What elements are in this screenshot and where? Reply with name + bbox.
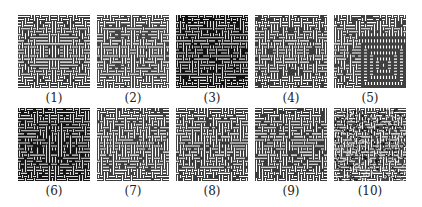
panel-label-2: (2) [97, 91, 169, 105]
panel-label-7: (7) [97, 184, 169, 198]
panel-label-8: (8) [176, 184, 248, 198]
pattern-panel-8 [176, 108, 248, 181]
pattern-panel-9 [255, 108, 327, 181]
pattern-panel-7 [97, 108, 169, 181]
panel-label-9: (9) [255, 184, 327, 198]
pattern-panel-2 [97, 15, 169, 88]
panel-label-3: (3) [176, 91, 248, 105]
pattern-panel-3 [176, 15, 248, 88]
panel-label-6: (6) [18, 184, 90, 198]
panel-label-4: (4) [255, 91, 327, 105]
panel-label-1: (1) [18, 91, 90, 105]
panel-label-5: (5) [334, 91, 406, 105]
pattern-panel-5 [334, 15, 406, 88]
pattern-panel-4 [255, 15, 327, 88]
pattern-panel-10 [334, 108, 406, 181]
pattern-panel-6 [18, 108, 90, 181]
pattern-panel-1 [18, 15, 90, 88]
panel-label-10: (10) [334, 184, 406, 198]
